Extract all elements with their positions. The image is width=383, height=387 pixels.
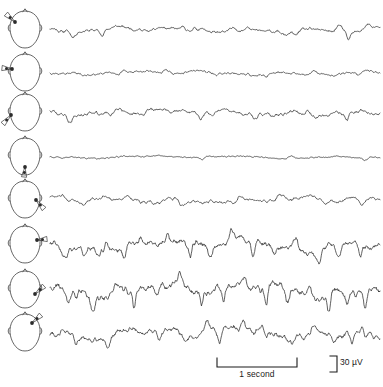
eeg-trace-graphic — [50, 8, 380, 52]
head-diagram-graphic — [2, 311, 48, 355]
head-outline-icon — [10, 271, 40, 308]
electrode-site-icon — [30, 321, 34, 325]
amplitude-scale-label: 30 µV — [340, 357, 363, 367]
electrode-marker-icon — [9, 16, 12, 19]
head-diagram-graphic — [2, 223, 48, 267]
eeg-trace-channel-2 — [50, 51, 380, 95]
head-diagram-graphic — [2, 268, 48, 312]
eeg-trace-channel-4 — [50, 135, 380, 179]
head-outline-icon — [10, 314, 40, 351]
eeg-waveform-path — [50, 320, 380, 348]
electrode-marker-icon — [36, 317, 39, 320]
eeg-channel-row — [0, 178, 383, 222]
eeg-trace-channel-8 — [50, 311, 380, 355]
electrode-marker-icon — [39, 288, 42, 291]
head-diagram-channel-3 — [2, 91, 48, 135]
eeg-trace-channel-7 — [50, 268, 380, 312]
head-diagram-graphic — [2, 91, 48, 135]
electrode-site-icon — [9, 113, 13, 117]
eeg-waveform-path — [50, 24, 380, 40]
electrode-marker-icon — [39, 203, 42, 206]
amplitude-scale-bar: 30 µV — [328, 354, 380, 380]
eeg-trace-graphic — [50, 51, 380, 95]
eeg-trace-graphic — [50, 311, 380, 355]
eeg-trace-graphic — [50, 91, 380, 135]
eeg-trace-graphic — [50, 223, 380, 267]
eeg-waveform-path — [50, 194, 380, 205]
eeg-trace-graphic — [50, 268, 380, 312]
head-diagram-graphic — [2, 51, 48, 95]
eeg-trace-channel-1 — [50, 8, 380, 52]
eeg-channel-row — [0, 135, 383, 179]
eeg-channel-row — [0, 51, 383, 95]
eeg-waveform-path — [50, 228, 380, 264]
eeg-figure: 1 second 30 µV — [0, 0, 383, 387]
head-outline-icon — [10, 226, 40, 263]
electrode-site-icon — [10, 67, 14, 71]
electrode-site-icon — [33, 292, 37, 296]
head-diagram-graphic — [2, 135, 48, 179]
head-diagram-graphic — [2, 178, 48, 222]
head-outline-icon — [10, 54, 40, 91]
electrode-marker-icon — [41, 238, 44, 241]
eeg-waveform-path — [50, 70, 380, 78]
eeg-trace-channel-6 — [50, 223, 380, 267]
eeg-trace-graphic — [50, 135, 380, 179]
eeg-channel-row — [0, 311, 383, 355]
time-scale-label: 1 second — [216, 369, 298, 379]
eeg-trace-graphic — [50, 178, 380, 222]
head-diagram-channel-2 — [2, 51, 48, 95]
eeg-channel-row — [0, 268, 383, 312]
eeg-trace-channel-5 — [50, 178, 380, 222]
head-diagram-channel-8 — [2, 311, 48, 355]
head-diagram-channel-4 — [2, 135, 48, 179]
eeg-waveform-path — [50, 271, 380, 311]
electrode-marker-icon — [5, 118, 8, 121]
scale-bars: 1 second 30 µV — [0, 352, 383, 387]
electrode-site-icon — [34, 198, 38, 202]
head-diagram-channel-1 — [2, 8, 48, 52]
electrode-site-icon — [35, 238, 39, 242]
head-diagram-graphic — [2, 8, 48, 52]
eeg-channel-row — [0, 8, 383, 52]
head-diagram-channel-6 — [2, 223, 48, 267]
head-outline-icon — [10, 11, 40, 48]
electrode-marker-icon — [5, 67, 8, 70]
electrode-site-icon — [13, 20, 17, 24]
eeg-waveform-path — [50, 155, 380, 161]
eeg-waveform-path — [50, 108, 380, 123]
head-diagram-channel-7 — [2, 268, 48, 312]
electrode-site-icon — [23, 165, 27, 169]
time-scale-bar: 1 second — [216, 356, 298, 384]
head-outline-icon — [10, 94, 40, 131]
head-outline-icon — [10, 138, 40, 175]
eeg-trace-channel-3 — [50, 91, 380, 135]
eeg-channel-row — [0, 223, 383, 267]
electrode-marker-icon — [23, 171, 26, 174]
eeg-channel-row — [0, 91, 383, 135]
head-diagram-channel-5 — [2, 178, 48, 222]
